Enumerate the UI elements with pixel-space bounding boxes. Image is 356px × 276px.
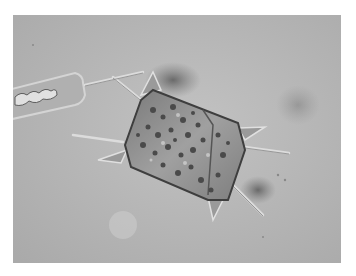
diatom-illustration: [13, 15, 341, 263]
micrograph-photo: [13, 15, 341, 263]
